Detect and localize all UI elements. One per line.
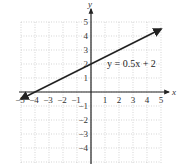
y-tick-label: 4 <box>84 31 89 41</box>
y-tick-label: −2 <box>78 115 88 125</box>
y-tick-label: −3 <box>78 129 88 139</box>
x-tick-label: 4 <box>145 95 150 105</box>
x-tick-label: −2 <box>57 95 67 105</box>
x-tick-label: −5 <box>15 95 25 105</box>
y-tick-label: 1 <box>84 73 89 83</box>
x-tick-label: −3 <box>43 95 53 105</box>
line-chart: xy−5−4−3−2−11234554321−1−2−3−4y = 0.5x +… <box>0 0 180 164</box>
y-axis-label: y <box>87 0 92 9</box>
y-tick-label: −4 <box>78 143 88 153</box>
x-tick-label: 5 <box>159 95 164 105</box>
x-tick-label: −4 <box>29 95 39 105</box>
x-axis-label: x <box>171 87 176 97</box>
equation-label: y = 0.5x + 2 <box>107 58 156 69</box>
y-tick-label: −1 <box>78 101 88 111</box>
x-tick-label: 2 <box>117 95 122 105</box>
x-tick-label: 3 <box>131 95 136 105</box>
y-tick-label: 3 <box>84 45 89 55</box>
x-tick-label: 1 <box>103 95 108 105</box>
y-tick-label: 5 <box>84 17 89 27</box>
